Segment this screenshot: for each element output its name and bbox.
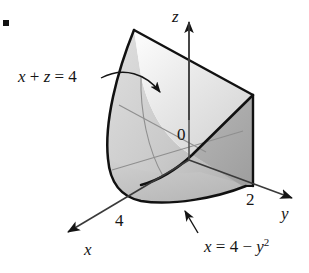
- parabola-equation-label: x = 4 − y2: [203, 236, 269, 256]
- tick-label-y-2: 2: [246, 190, 255, 209]
- axis-x-label: x: [83, 240, 92, 259]
- origin-label: 0: [177, 125, 186, 144]
- plane-label-equals-4: = 4: [50, 67, 77, 86]
- solid-region-diagram: x + z = 4 x = 4 − y2 0 z y x 2 4: [0, 0, 309, 273]
- bullet-marker-icon: [3, 20, 9, 26]
- figure-canvas: x + z = 4 x = 4 − y2 0 z y x 2 4: [0, 0, 309, 273]
- solid-body: [107, 30, 253, 203]
- parabola-label-exponent: 2: [264, 236, 270, 248]
- plane-equation-label: x + z = 4: [17, 67, 77, 86]
- parabola-label-equals-4-minus: = 4 −: [212, 237, 257, 256]
- axis-y-label: y: [279, 204, 289, 223]
- plane-label-plus: +: [26, 67, 44, 86]
- parabola-label-y: y: [254, 237, 264, 256]
- axis-z-label: z: [171, 7, 179, 26]
- parabola-label-arrow: [185, 211, 198, 233]
- tick-label-x-4: 4: [115, 211, 124, 230]
